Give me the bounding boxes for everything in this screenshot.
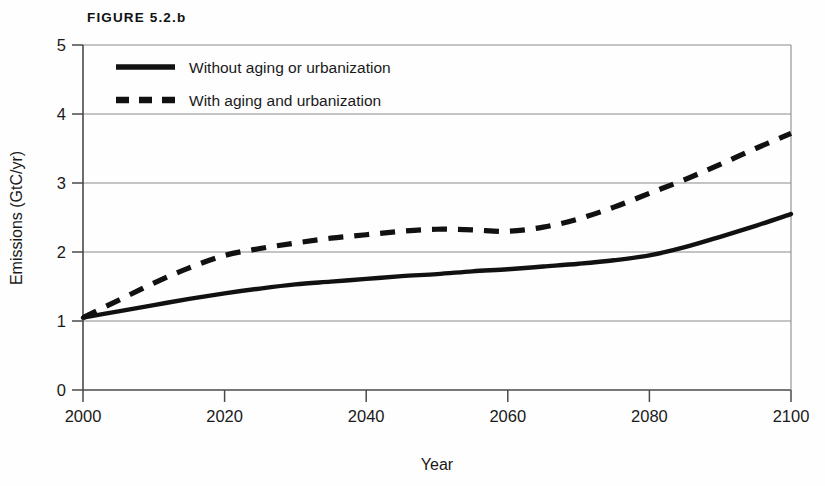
x-tick-label-2040: 2040: [348, 407, 385, 425]
legend: Without aging or urbanizationWith aging …: [116, 59, 391, 109]
series-line-2: [83, 133, 791, 317]
emissions-line-chart: 012345 200020202040206020802100 Emission…: [0, 0, 825, 486]
y-tick-label-4: 4: [57, 105, 66, 123]
x-tick-label-2000: 2000: [65, 407, 102, 425]
x-tick-labels-group: 200020202040206020802100: [65, 407, 810, 425]
y-tick-label-1: 1: [57, 312, 66, 330]
y-tick-label-3: 3: [57, 174, 66, 192]
y-axis-title: Emissions (GtC/yr): [8, 151, 25, 285]
y-tick-label-0: 0: [57, 381, 66, 399]
gridlines-group: [83, 45, 791, 321]
x-tick-label-2100: 2100: [773, 407, 810, 425]
figure-container: FIGURE 5.2.b 012345 20002020204020602080…: [0, 0, 825, 486]
y-tick-label-5: 5: [57, 36, 66, 54]
data-series-group: [83, 133, 791, 317]
legend-label-1: Without aging or urbanization: [189, 59, 391, 76]
legend-label-2: With aging and urbanization: [189, 92, 381, 109]
x-tick-label-2060: 2060: [489, 407, 526, 425]
x-tick-label-2080: 2080: [631, 407, 668, 425]
x-axis-title: Year: [421, 456, 454, 473]
y-tick-label-2: 2: [57, 243, 66, 261]
y-tick-labels-group: 012345: [57, 36, 66, 399]
x-tick-label-2020: 2020: [206, 407, 243, 425]
x-tick-marks-group: [83, 390, 791, 402]
y-tick-marks-group: [72, 45, 83, 390]
